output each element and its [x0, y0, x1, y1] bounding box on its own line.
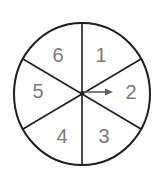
section-label-6: 6 — [52, 44, 63, 66]
section-label-3: 3 — [98, 125, 109, 147]
section-label-5: 5 — [32, 80, 43, 102]
section-label-2: 2 — [125, 81, 136, 103]
pointer-arrow-icon — [83, 89, 113, 96]
spinner-diagram: 1 2 3 4 5 6 — [0, 0, 162, 176]
spinner: 1 2 3 4 5 6 — [0, 0, 162, 176]
section-label-1: 1 — [95, 44, 106, 66]
center-hub — [80, 91, 84, 95]
section-label-4: 4 — [56, 125, 67, 147]
